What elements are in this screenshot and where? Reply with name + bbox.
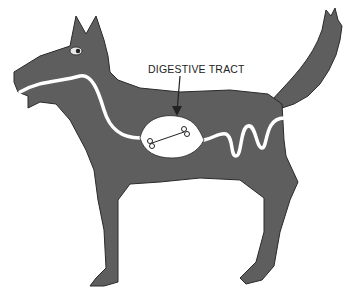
- dog-illustration: [0, 0, 356, 302]
- dog-tail: [272, 8, 342, 108]
- digestive-tract-label: DIGESTIVE TRACT: [148, 63, 245, 75]
